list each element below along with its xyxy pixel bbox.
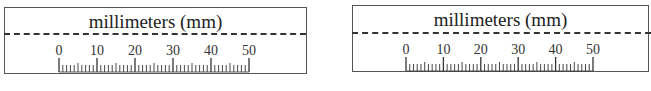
tick-label: 0 <box>403 42 410 57</box>
tick-label: 30 <box>511 42 525 57</box>
tick-label: 20 <box>474 42 488 57</box>
mm-ruler-right: 01020304050 <box>0 0 651 91</box>
tick-label: 10 <box>436 42 450 57</box>
tick-label: 50 <box>586 42 600 57</box>
tick-label: 40 <box>549 42 563 57</box>
